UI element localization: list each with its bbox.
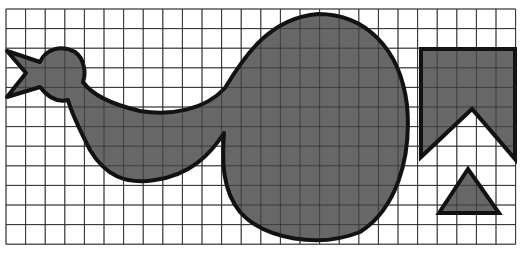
triangle bbox=[439, 169, 499, 213]
notched-pentagon bbox=[421, 49, 515, 159]
grid-figure bbox=[0, 0, 522, 258]
grid-lines-overlay bbox=[6, 9, 516, 244]
